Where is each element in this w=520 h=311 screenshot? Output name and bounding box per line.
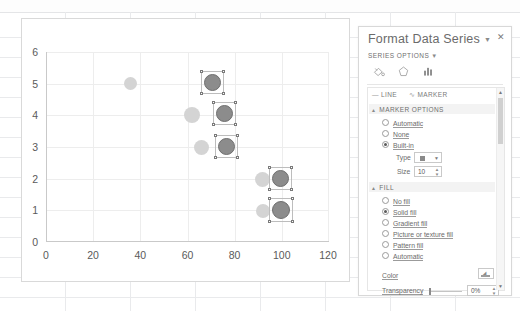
selection-handle[interactable] bbox=[291, 220, 294, 223]
radio-button bbox=[382, 252, 389, 259]
radio-label: Automatic bbox=[393, 253, 423, 261]
marker-type-dropdown[interactable]: ▼ bbox=[414, 152, 442, 163]
data-point-marker[interactable] bbox=[256, 204, 270, 218]
fill-title: FILL bbox=[379, 184, 394, 191]
selection-handle[interactable] bbox=[268, 220, 271, 223]
y-axis-tick-label: 1 bbox=[16, 205, 38, 215]
selection-handle[interactable] bbox=[268, 197, 271, 200]
selection-handle[interactable] bbox=[212, 101, 215, 104]
radio-marker-none[interactable]: None bbox=[382, 130, 409, 138]
pane-scrollbar[interactable]: ▲ ▼ bbox=[496, 88, 504, 290]
radio-label: None bbox=[393, 131, 409, 139]
tab-underline bbox=[367, 84, 503, 85]
selection-handle[interactable] bbox=[214, 134, 217, 137]
selection-box bbox=[201, 71, 224, 94]
chevron-down-icon: ▼ bbox=[431, 53, 437, 59]
selection-box bbox=[215, 135, 238, 158]
pane-title: Format Data Series bbox=[368, 32, 480, 46]
selection-handle[interactable] bbox=[268, 188, 271, 191]
spinner-arrows-icon[interactable]: ▲▼ bbox=[434, 167, 440, 177]
radio-gradient-fill[interactable]: Gradient fill bbox=[382, 219, 427, 227]
marker-size-label: Size bbox=[397, 168, 410, 175]
radio-label: Solid fill bbox=[393, 209, 416, 217]
transparency-spinner[interactable]: 0% ▲▼ bbox=[467, 285, 499, 296]
pane-scroll-area[interactable]: — LINE ∿ MARKER ▲MARKER OPTIONS Automati… bbox=[367, 87, 505, 291]
selection-handle[interactable] bbox=[234, 123, 237, 126]
color-label: Color bbox=[382, 272, 398, 280]
radio-no-fill[interactable]: No fill bbox=[382, 197, 410, 205]
chevron-down-icon[interactable]: ▼ bbox=[484, 36, 491, 43]
radio-button bbox=[382, 197, 389, 204]
x-axis-tick-label: 100 bbox=[267, 250, 297, 260]
tab-fill-line[interactable] bbox=[367, 64, 389, 82]
y-axis-line bbox=[46, 52, 47, 242]
transparency-label: Transparency bbox=[382, 287, 423, 295]
selection-handle[interactable] bbox=[236, 156, 239, 159]
selection-handle[interactable] bbox=[236, 134, 239, 137]
transparency-value: 0% bbox=[471, 287, 480, 294]
subtab-marker-label: MARKER bbox=[418, 91, 448, 98]
subtab-line-label: LINE bbox=[381, 91, 397, 98]
chart-plot-area[interactable] bbox=[46, 52, 329, 242]
radio-pattern-fill[interactable]: Pattern fill bbox=[382, 241, 423, 249]
caret-up-icon[interactable]: ▲ bbox=[498, 89, 503, 95]
x-axis-tick-label: 40 bbox=[125, 250, 155, 260]
transparency-slider-track[interactable] bbox=[430, 291, 462, 292]
y-axis-tick-label: 0 bbox=[16, 237, 38, 247]
transparency-slider-knob[interactable] bbox=[429, 288, 431, 295]
triangle-expanded-icon: ▲ bbox=[371, 185, 376, 191]
series-options-dropdown[interactable]: SERIES OPTIONS▼ bbox=[368, 52, 438, 59]
radio-label: Picture or texture fill bbox=[393, 231, 453, 239]
radio-picture-texture-fill[interactable]: Picture or texture fill bbox=[382, 230, 453, 238]
y-axis-tick-label: 4 bbox=[16, 110, 38, 120]
chart-object[interactable]: 6 5 4 3 2 1 0 0 20 40 60 80 100 120 bbox=[21, 18, 350, 282]
selection-handle[interactable] bbox=[214, 156, 217, 159]
radio-marker-automatic[interactable]: Automatic bbox=[382, 119, 423, 127]
tab-series-options[interactable] bbox=[417, 64, 439, 82]
subtab-line[interactable]: — LINE bbox=[372, 91, 399, 98]
selection-handle[interactable] bbox=[212, 123, 215, 126]
selection-handle[interactable] bbox=[290, 166, 293, 169]
selection-box bbox=[269, 167, 292, 190]
data-point-marker[interactable] bbox=[124, 77, 137, 90]
selection-handle[interactable] bbox=[234, 101, 237, 104]
selection-handle[interactable] bbox=[268, 166, 271, 169]
data-point-marker[interactable] bbox=[184, 107, 200, 123]
subtab-marker[interactable]: ∿ MARKER bbox=[409, 91, 447, 98]
selection-handle[interactable] bbox=[291, 197, 294, 200]
color-swatch-bar bbox=[481, 275, 490, 277]
radio-label: No fill bbox=[393, 198, 410, 206]
chevron-down-icon: ▼ bbox=[434, 155, 439, 161]
line-dash-icon: — bbox=[372, 91, 379, 98]
radio-automatic-fill[interactable]: Automatic bbox=[382, 252, 423, 260]
marker-size-spinner[interactable]: 10 ▲▼ bbox=[414, 166, 442, 177]
marker-curve-icon: ∿ bbox=[409, 91, 415, 98]
radio-solid-fill[interactable]: Solid fill bbox=[382, 208, 416, 216]
color-picker-button[interactable]: ◢ bbox=[478, 268, 494, 279]
close-icon[interactable]: ✕ bbox=[497, 32, 505, 42]
selection-handle[interactable] bbox=[222, 92, 225, 95]
data-point-marker[interactable] bbox=[255, 172, 270, 187]
marker-options-title-row: ▲MARKER OPTIONS bbox=[371, 106, 444, 113]
pane-tab-row[interactable] bbox=[367, 64, 487, 84]
tab-effects[interactable] bbox=[392, 64, 414, 82]
caret-down-icon[interactable]: ▼ bbox=[498, 283, 503, 289]
selection-handle[interactable] bbox=[200, 70, 203, 73]
y-axis-tick-label: 2 bbox=[16, 174, 38, 184]
y-axis-tick-label: 3 bbox=[16, 142, 38, 152]
radio-button bbox=[382, 241, 389, 248]
x-axis-tick-label: 20 bbox=[78, 250, 108, 260]
data-point-marker[interactable] bbox=[194, 140, 209, 155]
radio-label: Built-in bbox=[393, 142, 414, 150]
selection-handle[interactable] bbox=[222, 70, 225, 73]
grid-line-horizontal bbox=[0, 297, 520, 298]
selection-handle[interactable] bbox=[290, 188, 293, 191]
bar-chart-icon bbox=[422, 64, 435, 82]
radio-marker-builtin[interactable]: Built-in bbox=[382, 141, 414, 149]
triangle-expanded-icon: ▲ bbox=[371, 107, 376, 113]
pane-subtab-row[interactable]: — LINE ∿ MARKER bbox=[372, 91, 447, 99]
format-data-series-pane[interactable]: Format Data Series ▼ ✕ SERIES OPTIONS▼ bbox=[358, 26, 512, 296]
scrollbar-thumb[interactable] bbox=[498, 98, 503, 144]
selection-handle[interactable] bbox=[200, 92, 203, 95]
plot-gridline-v bbox=[140, 52, 141, 242]
